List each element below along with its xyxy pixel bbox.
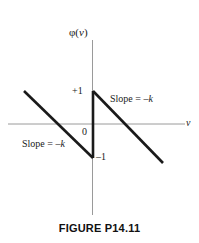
slope-annotation-left-variable: k <box>60 138 64 149</box>
x-axis-label: v <box>186 118 190 128</box>
slope-annotation-right-variable: k <box>148 93 152 104</box>
slope-annotation-right: Slope = –k <box>110 94 153 104</box>
plot-canvas <box>0 0 199 243</box>
y-axis-label-phi: φ( <box>69 26 79 38</box>
y-axis-label-close-paren: ) <box>84 26 88 38</box>
y-tick-label-plus-one: +1 <box>72 86 83 96</box>
y-axis-label: φ(v) <box>69 27 88 38</box>
slope-annotation-left: Slope = –k <box>22 139 65 149</box>
slope-annotation-left-text: Slope = – <box>22 138 60 149</box>
y-tick-label-minus-one: –1 <box>96 152 106 162</box>
figure-container: φ(v) v +1 0 –1 Slope = –k Slope = –k FIG… <box>0 0 199 243</box>
figure-caption: FIGURE P14.11 <box>0 222 199 234</box>
slope-annotation-right-text: Slope = – <box>110 93 148 104</box>
origin-label-zero: 0 <box>82 127 87 137</box>
